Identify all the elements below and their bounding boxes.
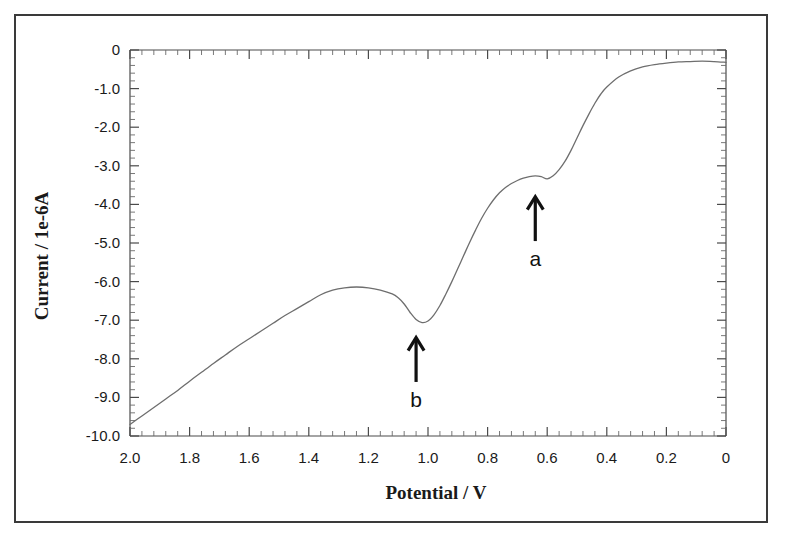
annotation-label-b: b [410,388,422,411]
data-curve-voltammogram [130,61,726,424]
x-tick-label: 1.8 [179,449,200,466]
y-tick-label: -3.0 [94,157,120,174]
y-tick-label: -10.0 [86,427,120,444]
y-tick-label: -9.0 [94,388,120,405]
x-tick-label: 0.8 [477,449,498,466]
y-tick-label: -4.0 [94,195,120,212]
x-axis-title: Potential / V [386,482,487,503]
y-tick-label: -6.0 [94,273,120,290]
x-tick-label: 2.0 [120,449,141,466]
annotation-b: b [408,338,424,412]
y-tick-label: -1.0 [94,80,120,97]
annotation-a: a [527,197,543,271]
x-tick-label: 1.6 [239,449,260,466]
y-tick-label: -2.0 [94,118,120,135]
x-tick-label: 1.0 [418,449,439,466]
x-tick-label: 0.2 [656,449,677,466]
annotation-label-a: a [529,247,541,270]
y-axis-title: Current / 1e-6A [31,192,52,321]
figure-root: 2.01.81.61.41.21.00.80.60.40.200-1.0-2.0… [0,0,786,537]
y-tick-label: -7.0 [94,311,120,328]
x-tick-label: 0 [722,449,730,466]
figure-border: 2.01.81.61.41.21.00.80.60.40.200-1.0-2.0… [14,14,768,523]
x-tick-label: 1.2 [358,449,379,466]
x-tick-label: 1.4 [298,449,319,466]
y-tick-label: -5.0 [94,234,120,251]
x-tick-label: 0.4 [596,449,617,466]
voltammogram-chart: 2.01.81.61.41.21.00.80.60.40.200-1.0-2.0… [16,16,766,521]
axes-layer: 2.01.81.61.41.21.00.80.60.40.200-1.0-2.0… [86,41,730,466]
x-tick-label: 0.6 [537,449,558,466]
y-tick-label: 0 [112,41,120,58]
curve-layer [130,61,726,424]
y-tick-label: -8.0 [94,350,120,367]
